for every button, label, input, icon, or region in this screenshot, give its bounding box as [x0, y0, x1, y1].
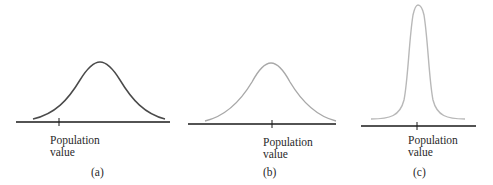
curve-a [33, 62, 165, 119]
label-line1: Population [50, 134, 100, 146]
curve-c [371, 5, 465, 119]
panel-b [188, 63, 336, 128]
label-line2: value [50, 146, 100, 158]
caption-a: (a) [91, 166, 104, 178]
caption-c: (c) [413, 166, 426, 178]
label-line2: value [263, 148, 313, 160]
population-value-label-a: Population value [50, 134, 100, 158]
panel-c [361, 5, 476, 130]
population-value-label-b: Population value [263, 136, 313, 160]
caption-b: (b) [263, 166, 276, 178]
label-line1: Population [408, 134, 458, 146]
panel-a [16, 62, 170, 126]
population-value-label-c: Population value [408, 134, 458, 158]
label-line1: Population [263, 136, 313, 148]
label-line2: value [408, 146, 458, 158]
curve-b [205, 63, 336, 121]
